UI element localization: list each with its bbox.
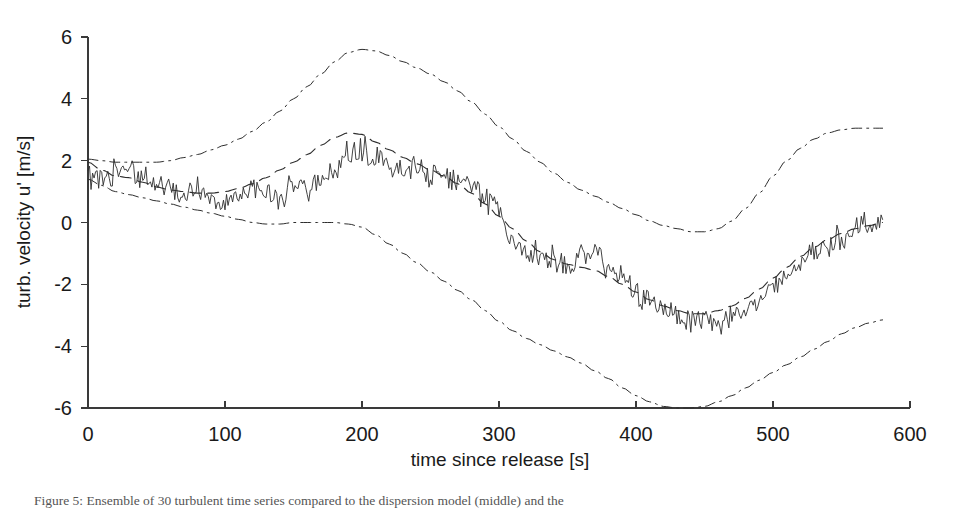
y-tick-label: 0 xyxy=(61,212,72,234)
x-tick-label: 0 xyxy=(82,423,93,445)
x-tick-label: 200 xyxy=(345,423,378,445)
x-tick-label: 300 xyxy=(482,423,515,445)
series-line xyxy=(88,136,883,334)
turbulent-velocity-line-chart: -6-4-202460100200300400500600 turb. velo… xyxy=(0,0,969,470)
y-tick-label: 2 xyxy=(61,150,72,172)
series-line xyxy=(88,179,883,408)
series-line xyxy=(88,133,883,314)
axis-spines xyxy=(88,37,910,408)
y-tick-label: -2 xyxy=(54,273,72,295)
x-tick-label: 100 xyxy=(208,423,241,445)
y-tick-label: -4 xyxy=(54,335,72,357)
figure-caption: Figure 5: Ensemble of 30 turbulent time … xyxy=(0,470,969,509)
x-axis-title: time since release [s] xyxy=(411,449,589,470)
ticks-group: -6-4-202460100200300400500600 xyxy=(54,26,926,445)
series-group xyxy=(88,49,883,408)
figure-root: -6-4-202460100200300400500600 turb. velo… xyxy=(0,0,969,514)
y-tick-label: 4 xyxy=(61,88,72,110)
x-tick-label: 400 xyxy=(619,423,652,445)
y-tick-label: -6 xyxy=(54,397,72,419)
y-tick-label: 6 xyxy=(61,26,72,48)
figure-caption-area: Figure 5: Ensemble of 30 turbulent time … xyxy=(0,470,969,514)
axes-group xyxy=(88,37,910,408)
x-tick-label: 500 xyxy=(756,423,789,445)
x-tick-label: 600 xyxy=(893,423,926,445)
chart-plot-area: -6-4-202460100200300400500600 turb. velo… xyxy=(0,0,969,470)
y-axis-title: turb. velocity u' [m/s] xyxy=(13,136,34,309)
